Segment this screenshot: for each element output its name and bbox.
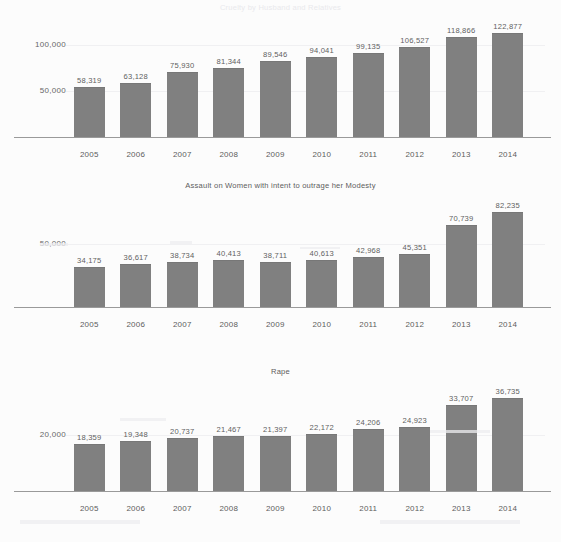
x-axis-label: 2012 bbox=[392, 320, 439, 329]
bar-value-label: 70,739 bbox=[449, 214, 473, 223]
bar-column[interactable]: 42,968 bbox=[345, 246, 392, 307]
bar-column[interactable]: 38,711 bbox=[252, 251, 299, 307]
bar-column[interactable]: 122,877 bbox=[485, 22, 532, 137]
bar-value-label: 24,206 bbox=[356, 418, 380, 427]
bar[interactable] bbox=[353, 429, 384, 491]
chart-block-assault: Assault on Women with intent to outrage … bbox=[0, 180, 561, 319]
bar[interactable] bbox=[120, 441, 151, 491]
y-axis-tick: 50,000 bbox=[14, 239, 66, 248]
bar-column[interactable]: 18,359 bbox=[66, 433, 113, 491]
bar[interactable] bbox=[260, 262, 291, 307]
bar[interactable] bbox=[213, 260, 244, 307]
x-axis-label: 2006 bbox=[113, 504, 160, 513]
x-axis-label: 2011 bbox=[345, 150, 392, 159]
bar[interactable] bbox=[399, 427, 430, 491]
bar-value-label: 122,877 bbox=[493, 22, 522, 31]
bar[interactable] bbox=[353, 53, 384, 137]
bar[interactable] bbox=[492, 212, 523, 307]
bar[interactable] bbox=[167, 438, 198, 491]
bar-column[interactable]: 89,546 bbox=[252, 50, 299, 137]
bar[interactable] bbox=[74, 87, 105, 137]
bar-column[interactable]: 82,235 bbox=[485, 201, 532, 307]
y-axis-tick: 100,000 bbox=[14, 40, 66, 49]
bar-column[interactable]: 20,737 bbox=[159, 427, 206, 491]
bar[interactable] bbox=[260, 61, 291, 137]
x-axis-labels: 2005200620072008200920102011201220132014 bbox=[66, 150, 531, 159]
chart-title: Assault on Women with intent to outrage … bbox=[0, 180, 561, 191]
bar-column[interactable]: 63,128 bbox=[113, 72, 160, 137]
bar[interactable] bbox=[399, 47, 430, 137]
bar[interactable] bbox=[213, 68, 244, 137]
x-axis-line bbox=[14, 137, 551, 138]
bar[interactable] bbox=[446, 405, 477, 491]
bar-column[interactable]: 81,344 bbox=[206, 57, 253, 137]
bar-value-label: 40,413 bbox=[217, 249, 241, 258]
bar[interactable] bbox=[353, 257, 384, 307]
bar[interactable] bbox=[260, 436, 291, 491]
bar-column[interactable]: 33,707 bbox=[438, 394, 485, 491]
bar[interactable] bbox=[492, 398, 523, 491]
bar[interactable] bbox=[446, 37, 477, 137]
bar-column[interactable]: 22,172 bbox=[299, 423, 346, 491]
x-axis-label: 2007 bbox=[159, 320, 206, 329]
x-axis-label: 2011 bbox=[345, 320, 392, 329]
bar-value-label: 42,968 bbox=[356, 246, 380, 255]
bar-value-label: 21,467 bbox=[217, 425, 241, 434]
bar-column[interactable]: 38,734 bbox=[159, 251, 206, 307]
bar-value-label: 24,923 bbox=[403, 416, 427, 425]
y-axis-tick: 50,000 bbox=[14, 86, 66, 95]
bar-value-label: 58,319 bbox=[77, 76, 101, 85]
bar-column[interactable]: 21,467 bbox=[206, 425, 253, 491]
bar-column[interactable]: 94,041 bbox=[299, 46, 346, 137]
bar[interactable] bbox=[120, 264, 151, 307]
bar[interactable] bbox=[306, 434, 337, 491]
bar-column[interactable]: 58,319 bbox=[66, 76, 113, 137]
bar[interactable] bbox=[492, 33, 523, 137]
bar-column[interactable]: 75,930 bbox=[159, 61, 206, 137]
bar-column[interactable]: 106,527 bbox=[392, 36, 439, 137]
x-axis-label: 2009 bbox=[252, 320, 299, 329]
bar-column[interactable]: 36,735 bbox=[485, 387, 532, 491]
bar[interactable] bbox=[167, 72, 198, 137]
x-axis-line bbox=[14, 491, 551, 492]
bar[interactable] bbox=[74, 267, 105, 307]
bar[interactable] bbox=[306, 260, 337, 307]
bar-value-label: 63,128 bbox=[124, 72, 148, 81]
bar-column[interactable]: 24,206 bbox=[345, 418, 392, 491]
bar-column[interactable]: 36,617 bbox=[113, 253, 160, 307]
bar[interactable] bbox=[120, 83, 151, 137]
bar[interactable] bbox=[306, 57, 337, 137]
bar[interactable] bbox=[399, 254, 430, 307]
bar-column[interactable]: 40,413 bbox=[206, 249, 253, 307]
chart-block-rape: Rape 20,00018,35919,34820,73721,46721,39… bbox=[0, 366, 561, 503]
chart-title: Rape bbox=[0, 366, 561, 377]
x-axis-label: 2013 bbox=[438, 504, 485, 513]
bar[interactable] bbox=[74, 444, 105, 491]
bar-value-label: 82,235 bbox=[496, 201, 520, 210]
bar-value-label: 33,707 bbox=[449, 394, 473, 403]
x-axis-label: 2008 bbox=[206, 504, 253, 513]
x-axis-label: 2013 bbox=[438, 320, 485, 329]
chart-title: Cruelty by Husband and Relatives bbox=[0, 2, 561, 13]
x-axis-label: 2006 bbox=[113, 320, 160, 329]
chart-plot-area: 50,000100,00058,31963,12875,93081,34489,… bbox=[0, 13, 561, 149]
bar-column[interactable]: 34,175 bbox=[66, 256, 113, 307]
bar-column[interactable]: 99,135 bbox=[345, 42, 392, 137]
x-axis-label: 2014 bbox=[485, 150, 532, 159]
chart-block-cruelty: Cruelty by Husband and Relatives 50,0001… bbox=[0, 2, 561, 149]
bar-value-label: 36,617 bbox=[124, 253, 148, 262]
bar[interactable] bbox=[213, 436, 244, 491]
bar[interactable] bbox=[446, 225, 477, 307]
bar-value-label: 106,527 bbox=[400, 36, 429, 45]
bar-column[interactable]: 118,866 bbox=[438, 26, 485, 137]
bar-column[interactable]: 19,348 bbox=[113, 430, 160, 491]
bar[interactable] bbox=[167, 262, 198, 307]
bar-column[interactable]: 21,397 bbox=[252, 425, 299, 491]
bar-column[interactable]: 24,923 bbox=[392, 416, 439, 491]
bar-column[interactable]: 45,351 bbox=[392, 243, 439, 307]
bar-series: 58,31963,12875,93081,34489,54694,04199,1… bbox=[66, 13, 531, 137]
x-axis-labels: 2005200620072008200920102011201220132014 bbox=[66, 320, 531, 329]
x-axis-label: 2008 bbox=[206, 150, 253, 159]
bar-column[interactable]: 40,613 bbox=[299, 249, 346, 307]
bar-column[interactable]: 70,739 bbox=[438, 214, 485, 307]
